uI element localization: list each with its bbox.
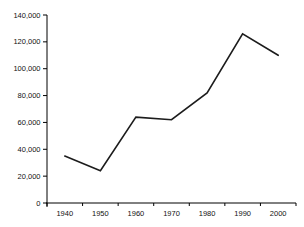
y-axis-tick-label: 140,000 <box>13 11 40 20</box>
y-axis-tick-label: 100,000 <box>13 64 40 73</box>
data-line <box>65 34 278 171</box>
x-axis-tick-label: 1970 <box>163 209 180 218</box>
x-axis-tick-label: 1980 <box>199 209 216 218</box>
y-axis-tick-label: 20,000 <box>18 172 41 181</box>
y-axis-tick-label: 120,000 <box>13 37 40 46</box>
y-axis-tick-label: 80,000 <box>18 91 41 100</box>
x-axis-tick-label: 1990 <box>234 209 251 218</box>
chart-canvas: 020,00040,00060,00080,000100,000120,0001… <box>0 0 304 227</box>
x-axis-tick-label: 1950 <box>92 209 109 218</box>
x-axis-tick-label: 1940 <box>56 209 73 218</box>
line-chart: 020,00040,00060,00080,000100,000120,0001… <box>0 0 304 227</box>
y-axis-tick-label: 40,000 <box>18 145 41 154</box>
y-axis-tick-label: 60,000 <box>18 118 41 127</box>
y-axis-tick-label: 0 <box>36 199 40 208</box>
x-axis-tick-label: 2000 <box>270 209 287 218</box>
x-axis-tick-label: 1960 <box>128 209 145 218</box>
